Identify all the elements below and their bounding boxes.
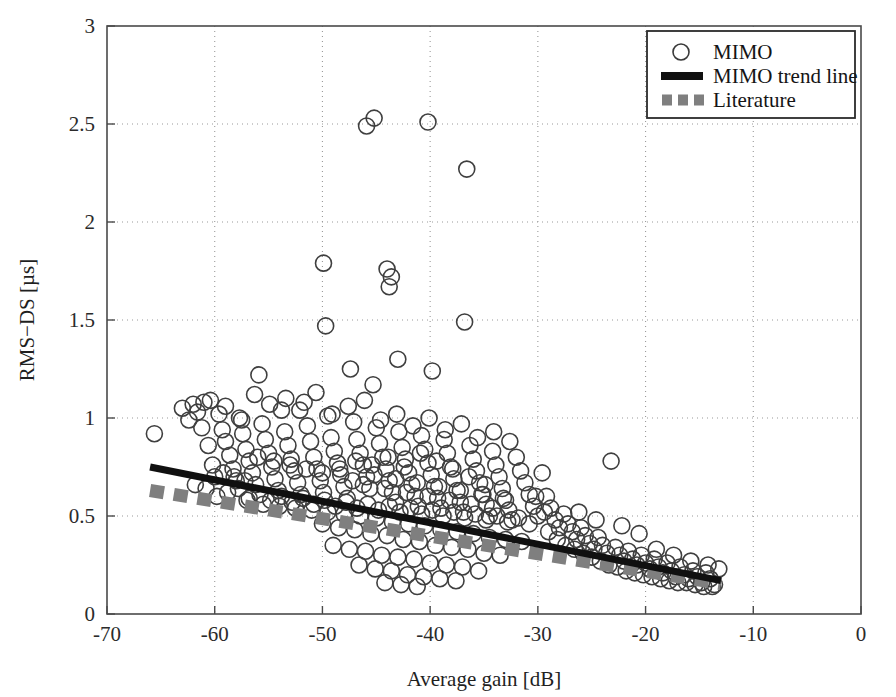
data-point-marker — [421, 410, 437, 426]
data-point-marker — [316, 255, 332, 271]
data-point-marker — [457, 314, 473, 330]
data-point-marker — [477, 477, 493, 493]
y-tick-label: 1 — [85, 406, 96, 430]
legend-item-label: MIMO trend line — [713, 64, 858, 88]
data-point-marker — [534, 465, 550, 481]
data-point-marker — [214, 422, 230, 438]
data-point-marker — [200, 437, 216, 453]
data-point-marker — [431, 479, 447, 495]
data-point-marker — [471, 563, 487, 579]
data-point-marker — [308, 385, 324, 401]
data-point-marker — [448, 573, 464, 589]
data-point-marker — [325, 537, 341, 553]
data-point-marker — [342, 361, 358, 377]
data-point-marker — [459, 161, 475, 177]
data-point-marker — [437, 422, 453, 438]
y-tick-label: 1.5 — [69, 308, 95, 332]
y-tick-label: 0.5 — [69, 504, 95, 528]
legend-box[interactable]: MIMOMIMO trend lineLiterature — [647, 31, 858, 118]
data-point-marker — [631, 526, 647, 542]
data-point-marker — [365, 377, 381, 393]
data-point-marker — [571, 504, 587, 520]
data-point-marker — [174, 400, 190, 416]
data-point-marker — [205, 457, 221, 473]
x-tick-label: -70 — [93, 622, 121, 646]
y-tick-label: 2 — [85, 210, 96, 234]
data-point-marker — [588, 512, 604, 528]
data-point-marker — [389, 406, 405, 422]
scatter-plot-svg: -70-60-50-40-30-20-10000.511.522.53 Aver… — [0, 0, 896, 697]
data-point-marker — [474, 486, 490, 502]
data-point-marker — [648, 541, 664, 557]
y-tick-label: 3 — [85, 14, 96, 38]
data-point-marker — [356, 392, 372, 408]
data-point-marker — [267, 471, 283, 487]
x-tick-label: -40 — [416, 622, 444, 646]
data-point-marker — [194, 420, 210, 436]
data-point-marker — [351, 557, 367, 573]
data-point-marker — [238, 441, 254, 457]
x-tick-label: -10 — [739, 622, 767, 646]
data-point-marker — [298, 461, 314, 477]
data-point-marker — [453, 416, 469, 432]
trend-lines — [150, 467, 721, 584]
data-point-marker — [341, 541, 357, 557]
data-point-marker — [424, 363, 440, 379]
y-axis-title: RMS−DS [µs] — [15, 259, 39, 382]
x-axis-title: Average gain [dB] — [407, 667, 562, 691]
y-tick-label: 0 — [85, 602, 96, 626]
y-tick-label: 2.5 — [69, 112, 95, 136]
data-point-marker — [383, 563, 399, 579]
data-point-marker — [614, 518, 630, 534]
data-point-marker — [406, 551, 422, 567]
data-point-marker — [346, 414, 362, 430]
chart-figure: -70-60-50-40-30-20-10000.511.522.53 Aver… — [0, 0, 896, 697]
data-point-marker — [299, 418, 315, 434]
data-point-marker — [303, 434, 319, 450]
data-point-marker — [420, 114, 436, 130]
data-point-marker — [429, 453, 445, 469]
data-point-marker — [318, 318, 334, 334]
data-point-marker — [146, 426, 162, 442]
x-tick-label: 0 — [856, 622, 867, 646]
data-point-marker — [603, 453, 619, 469]
legend-item-label: MIMO — [713, 40, 773, 64]
data-point-marker — [486, 424, 502, 440]
data-point-marker — [306, 449, 322, 465]
x-tick-label: -30 — [524, 622, 552, 646]
mimo-trend-line — [150, 467, 721, 581]
data-point-marker — [377, 575, 393, 591]
data-point-marker — [381, 279, 397, 295]
x-tick-label: -60 — [201, 622, 229, 646]
data-point-marker — [340, 398, 356, 414]
data-point-marker — [502, 434, 518, 450]
x-tick-label: -50 — [308, 622, 336, 646]
data-point-marker — [251, 367, 267, 383]
data-point-marker — [405, 418, 421, 434]
data-point-marker — [394, 439, 410, 455]
data-point-marker — [390, 351, 406, 367]
data-point-marker — [432, 571, 448, 587]
data-point-marker — [247, 386, 263, 402]
x-tick-label: -20 — [632, 622, 660, 646]
data-point-marker — [367, 561, 383, 577]
legend-item-label: Literature — [713, 88, 796, 112]
